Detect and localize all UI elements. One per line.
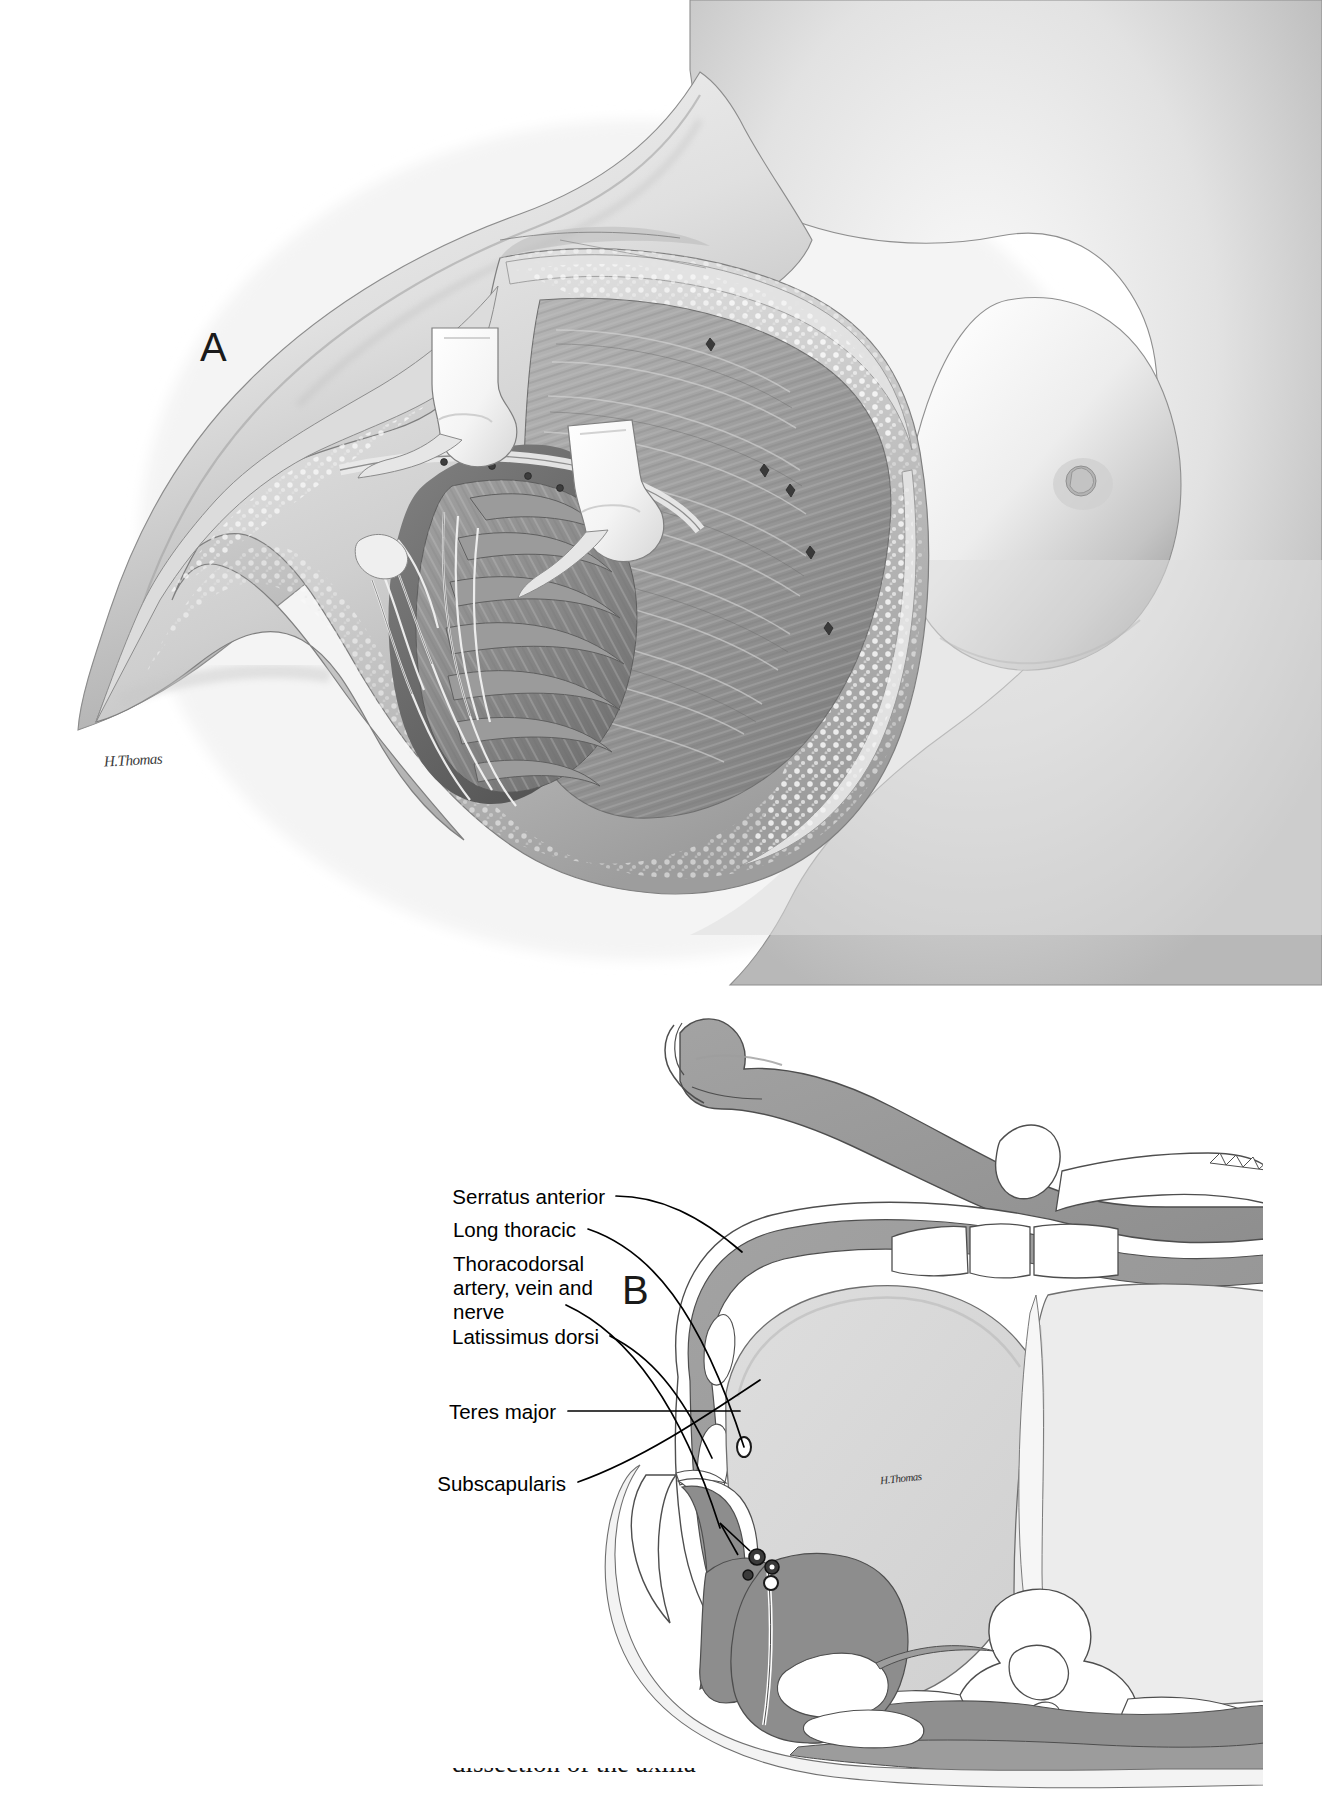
- panel-a-illustration: [0, 0, 1322, 1000]
- label-thoracodorsal: Thoracodorsal artery, vein and nerve: [250, 1252, 756, 1324]
- label-long-thoracic: Long thoracic: [250, 1218, 576, 1242]
- bottom-caption-text: dissection of the axilla: [452, 1768, 1312, 1779]
- figure-canvas: A H.Thomas: [0, 0, 1322, 1803]
- panel-a-label: A: [200, 325, 227, 370]
- long-thoracic-nerve-marker: [737, 1437, 751, 1457]
- bottom-caption-cropped: dissection of the axilla: [452, 1768, 1312, 1802]
- label-serratus-anterior: Serratus anterior: [250, 1185, 605, 1209]
- label-latissimus-dorsi: Latissimus dorsi: [250, 1325, 599, 1349]
- label-teres-major: Teres major: [250, 1400, 556, 1424]
- panel-b-cross-section: [562, 995, 1322, 1795]
- label-subscapularis: Subscapularis: [250, 1472, 566, 1496]
- artist-signature-panel-a: H.Thomas: [104, 750, 163, 770]
